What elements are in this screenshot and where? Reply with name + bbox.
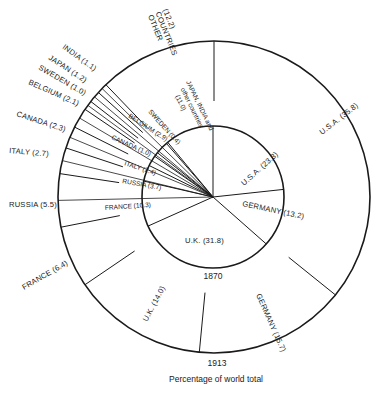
outer-label-canada: CANADA (2.3) [15,109,67,134]
outer-label-france: FRANCE (6.4) [21,258,70,292]
outer-label-russia: RUSSIA (5.5) [9,200,57,209]
inner-label-usa: U.S.A. (23.3) [239,150,280,188]
outer-divider [85,109,135,143]
inner-label-other: JAPAN, INDIA and other countries (11.0) [170,79,216,139]
outer-ring-dividers [58,41,335,352]
inner-label-germany: GERMANY (13.2) [242,199,306,221]
inner-divider [148,197,213,226]
outer-divider [85,251,135,285]
inner-divider [213,189,284,197]
outer-label-usa: U.S.A. (35.8) [318,101,360,137]
outer-divider [289,257,336,295]
concentric-pie-chart: U.S.A. (23.3) GERMANY (13.2) U.K. (31.8)… [0,0,377,393]
chart-caption: Percentage of world total [169,374,263,384]
leader-line [58,197,213,200]
outer-label-germany: GERMANY (15.7) [254,292,288,353]
outer-label-uk: U.K. (14.0) [141,284,167,323]
inner-label-france: FRANCE (10.3) [105,201,152,212]
outer-divider [61,216,120,228]
inner-label-uk: U.K. (31.8) [185,236,224,245]
outer-divider [199,293,205,353]
outer-label-italy: ITALY (2.7) [9,146,50,158]
outer-year-label: 1913 [208,358,227,368]
outer-divider [60,174,119,183]
inner-year-label: 1870 [204,271,223,281]
outer-divider [66,148,123,167]
outer-label-other: OTHER COUNTRIES (12.2) [146,7,187,60]
